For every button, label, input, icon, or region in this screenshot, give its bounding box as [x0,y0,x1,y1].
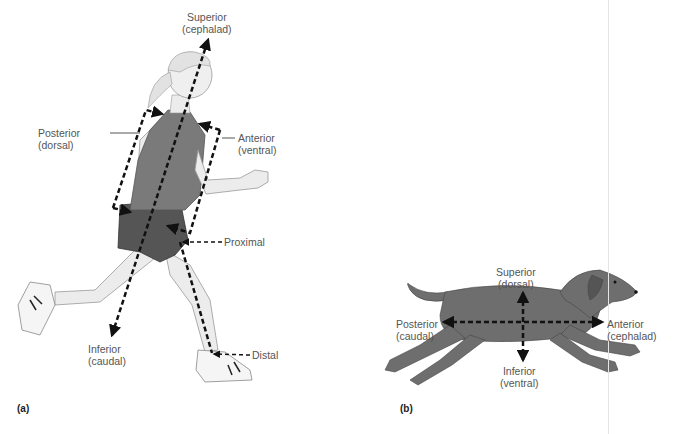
label-posterior-dorsal: Posterior (dorsal) [38,127,80,151]
label-line: (caudal) [396,330,438,342]
label-line: Superior [182,11,232,23]
panel-a-tag: (a) [17,403,29,414]
panel-b-tag: (b) [400,403,413,414]
label-distal: Distal [252,349,278,361]
runner-figure [18,52,268,382]
label-line: Anterior [238,132,277,144]
page-edge-divider [608,0,609,434]
label-line: (caudal) [88,355,126,367]
label-line: Posterior [396,318,438,330]
label-line: (dorsal) [496,278,536,290]
label-line: Posterior [38,127,80,139]
label-line: Distal [252,349,278,361]
label-line: Superior [496,266,536,278]
label-inferior-ventral: Inferior (ventral) [500,365,539,389]
label-line: (ventral) [500,377,539,389]
label-line: Proximal [224,236,265,248]
label-line: (cephalad) [182,23,232,35]
label-line: Inferior [88,343,126,355]
label-superior-dorsal: Superior (dorsal) [496,266,536,290]
label-posterior-caudal: Posterior (caudal) [396,318,438,342]
label-line: Inferior [500,365,539,377]
label-superior-cephalad: Superior (cephalad) [182,11,232,35]
label-inferior-caudal: Inferior (caudal) [88,343,126,367]
label-anterior-ventral: Anterior (ventral) [238,132,277,156]
label-anterior-cephalad: Anterior (cephalad) [607,318,657,342]
illustration [0,0,679,434]
label-line: Anterior [607,318,657,330]
label-line: (ventral) [238,144,277,156]
label-proximal: Proximal [224,236,265,248]
label-line: (cephalad) [607,330,657,342]
label-line: (dorsal) [38,139,80,151]
